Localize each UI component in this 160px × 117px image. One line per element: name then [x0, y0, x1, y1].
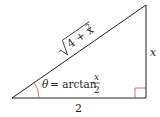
angle-theta-symbol: θ [42, 78, 49, 90]
vertical-side-label: x [150, 46, 157, 59]
hypotenuse-label: 4 + x 2 [55, 21, 98, 57]
hypotenuse-radicand: 4 + x [65, 23, 97, 51]
fraction-numerator: x [94, 72, 99, 82]
right-angle-marker [135, 88, 146, 98]
base-label: 2 [75, 102, 82, 115]
angle-equals-arctan: = arctan [50, 78, 97, 90]
fraction-denominator: 2 [94, 85, 100, 95]
right-triangle-diagram: 4 + x 2 x 2 θ = arctan x 2 [0, 0, 160, 117]
angle-arc [34, 83, 39, 98]
